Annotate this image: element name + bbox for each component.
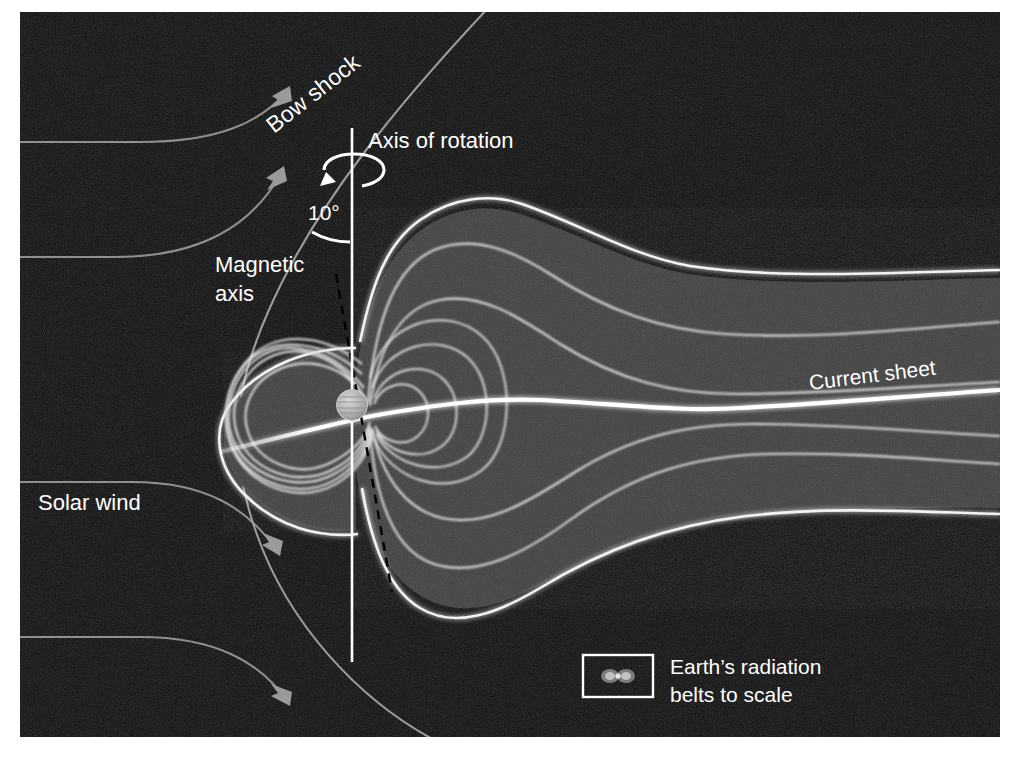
magnetic-axis-label-line1: Magnetic xyxy=(215,252,304,277)
solar-wind-label: Solar wind xyxy=(38,490,141,515)
tilt-angle-label: 10° xyxy=(308,201,340,224)
diagram-canvas: Bow shock Axis of rotation 10° Magnetic … xyxy=(20,12,1000,737)
legend-label-line2: belts to scale xyxy=(670,683,793,706)
axis-of-rotation-label: Axis of rotation xyxy=(368,128,514,153)
planet-body xyxy=(337,390,368,421)
magnetic-axis-label-line2: axis xyxy=(215,281,254,306)
magnetosphere-svg: Bow shock Axis of rotation 10° Magnetic … xyxy=(20,12,1000,737)
legend-label-line1: Earth’s radiation xyxy=(670,655,821,678)
figure-page: Bow shock Axis of rotation 10° Magnetic … xyxy=(0,0,1018,765)
